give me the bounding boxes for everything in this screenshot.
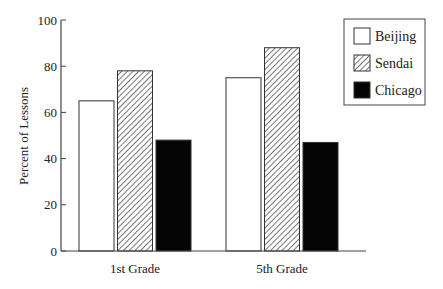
y-tick-label: 40 [44, 151, 57, 166]
bars [79, 48, 338, 251]
legend-label-beijing: Beijing [375, 29, 416, 44]
bar-chicago-1 [156, 140, 191, 251]
legend-swatch-sendai [354, 55, 370, 71]
legend-label-sendai: Sendai [375, 56, 413, 71]
bar-beijing-1 [79, 101, 114, 251]
legend: BeijingSendaiChicago [344, 19, 425, 105]
x-category-label: 5th Grade [256, 261, 308, 276]
x-axis: 1st Grade5th Grade [61, 251, 366, 276]
bar-beijing-2 [226, 78, 261, 251]
legend-swatch-beijing [354, 28, 370, 44]
y-axis: 020406080100 [38, 13, 67, 259]
legend-label-chicago: Chicago [375, 83, 422, 98]
y-tick-label: 20 [44, 197, 57, 212]
y-tick-label: 80 [44, 59, 57, 74]
bar-chart: 020406080100 1st Grade5th Grade Percent … [0, 0, 443, 289]
y-axis-title: Percent of Lessons [16, 87, 31, 185]
y-tick-label: 100 [38, 13, 58, 28]
y-tick-label: 0 [51, 244, 58, 259]
bar-chicago-2 [303, 142, 338, 251]
legend-swatch-chicago [354, 82, 370, 98]
bar-sendai-1 [118, 71, 153, 251]
x-category-label: 1st Grade [110, 261, 160, 276]
bar-sendai-2 [265, 48, 300, 251]
y-tick-label: 60 [44, 105, 57, 120]
